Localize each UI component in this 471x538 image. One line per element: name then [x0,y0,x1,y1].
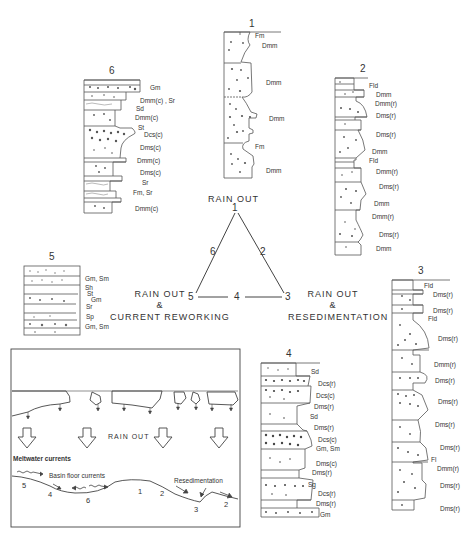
facies-label: Dms(r) [314,425,334,432]
log-6-title: 6 [109,66,115,76]
facies-label: Dmm(r) [434,362,456,369]
caption-line: RAIN OUT [110,289,210,300]
facies-label: Dms(r) [440,506,460,513]
facies-label: Dmm(c) [135,206,158,213]
inset-basin-floor-label: Basin floor currents [49,472,105,479]
facies-label: Dcs(r) [318,491,336,498]
log-5-title: 5 [49,252,55,262]
facies-label: Dms(r) [379,232,399,239]
facies-label: Gm, Sm [85,324,109,331]
log-1-title: 1 [249,19,255,29]
facies-label: Sr [142,180,149,187]
log-2-clasts [339,81,359,248]
caption-line: RESEDIMENTATION [288,312,378,323]
facies-label: Sd [311,369,319,376]
facies-label: Gm, Sm [316,446,340,453]
facies-label: Fl [431,457,436,464]
facies-label: Sr [86,304,93,311]
log-3-title: 3 [418,266,424,276]
facies-label: Dcs(c) [318,437,337,444]
inset-floor-number: 1 [138,487,142,496]
facies-label: Sg [308,482,316,489]
log-4-title: 4 [286,349,292,359]
inset-floor-number: 4 [48,490,52,499]
facies-label: Dms(r) [433,308,453,315]
facies-label: Dmm [269,116,285,123]
inset-dropstones [27,403,233,419]
facies-label: Fld [428,316,437,323]
facies-label: Dmm [266,168,282,175]
facies-label: Dmm(c) [137,158,160,165]
facies-label: Dmm [374,201,390,208]
facies-label: Fld [369,83,378,90]
facies-label: Dmm [376,246,392,253]
log-1-clasts [227,41,251,173]
facies-label: Dmm(r) [375,101,397,108]
facies-label: Dmm [262,43,278,50]
facies-label: Dms(r) [433,292,453,299]
log-3-column [392,280,450,510]
inset-floor-number: 2 [160,489,164,498]
facies-label: Dmm(c) , Sr [140,98,175,105]
facies-label: Sd [136,106,144,113]
log-4-clasts [265,367,313,514]
facies-label: Dmm(r) [372,214,394,221]
log-5-column [24,266,80,335]
caption-line: RAIN OUT [288,289,378,300]
facies-label: Dcs(c) [316,393,335,400]
inset-meltwater-label: Meltwater currents [13,455,71,462]
facies-label: Gm [320,512,330,519]
log-4-column [261,363,320,517]
facies-label: Dms(c) [140,145,161,152]
facies-label: Sp [86,314,94,321]
facies-label: Dms(r) [438,336,458,343]
caption-line: & [110,300,210,311]
facies-label: Dms(r) [435,378,455,385]
facies-label: Dmm [266,80,282,87]
facies-label: Fm [255,33,264,40]
vertex-3-caption: RAIN OUT & RESEDIMENTATION [288,289,378,323]
facies-label: Dcs(r) [318,381,336,388]
log-1-column [224,32,281,178]
log-5-clasts [29,269,67,333]
caption-line: CURRENT REWORKING [110,312,210,323]
vertex-1-number: 1 [232,203,238,213]
facies-label: Sd [310,414,318,421]
facies-label: Dmm(c) [135,115,158,122]
edge-label-4: 4 [234,292,240,302]
log-2-title: 2 [360,64,366,74]
facies-label: Dmm(r) [376,169,398,176]
inset-floor-number: 5 [22,481,26,490]
log-2-column [335,78,368,255]
vertex-5-caption: RAIN OUT & CURRENT REWORKING [110,289,210,323]
facies-label: Fm [255,144,264,151]
facies-label: Dcs(c) [144,132,163,139]
inset-rain-out-label: RAIN OUT [108,433,149,440]
inset-resedimentation-label: Resedimentation [174,477,223,484]
facies-label: Fld [369,158,378,165]
edge-label-6: 6 [210,247,216,257]
facies-label: Dms(r) [376,132,396,139]
edge-label-2: 2 [260,247,266,257]
facies-label: Dms(c) [140,170,161,177]
facies-label: Dms(r) [440,483,460,490]
facies-label: Dms(r) [314,404,334,411]
facies-label: Dms(r) [316,501,336,508]
facies-label: Dmm(r) [437,466,459,473]
facies-label: Gm [150,85,160,92]
facies-label: Dms(c) [316,461,337,468]
facies-label: Gm, Sm [85,276,109,283]
facies-label: Fm, Sr [133,190,153,197]
facies-label: Dmm [376,92,392,99]
log-3-clasts [397,295,419,506]
facies-label: Dms(r) [312,470,332,477]
facies-label: Dms(r) [435,422,455,429]
log-6-clasts [89,86,136,209]
facies-label: Dms(r) [438,399,458,406]
facies-label: Fld [424,283,433,290]
inset-floor-number: 2 [224,500,228,509]
facies-label: Dms(r) [376,113,396,120]
facies-label: Dms(r) [379,184,399,191]
facies-label: Dms(r) [440,445,460,452]
facies-label: Dmm [372,149,388,156]
